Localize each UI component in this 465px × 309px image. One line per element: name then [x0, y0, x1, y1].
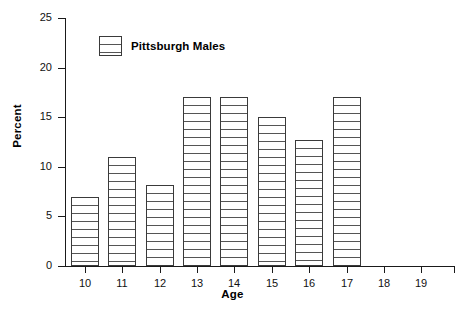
x-tick	[122, 266, 123, 273]
x-axis-title: Age	[0, 288, 465, 300]
y-tick	[58, 18, 66, 19]
x-tick	[309, 266, 310, 273]
bar-age-13	[183, 97, 211, 266]
bar-age-15	[258, 117, 286, 266]
y-tick-label: 0	[0, 260, 52, 271]
bar-age-11	[108, 157, 136, 266]
y-tick-label: 25	[0, 12, 52, 23]
bar-age-17	[333, 97, 361, 266]
bar-chart: Percent 0510152025 10111213141516171819 …	[0, 0, 465, 309]
chart-legend: Pittsburgh Males	[99, 36, 225, 56]
legend-swatch-pittsburgh-males	[99, 36, 122, 56]
legend-label-pittsburgh-males: Pittsburgh Males	[131, 40, 225, 52]
y-tick-label: 5	[0, 210, 52, 221]
x-tick	[384, 266, 385, 273]
y-tick-label: 15	[0, 111, 52, 122]
x-tick	[421, 266, 422, 273]
x-tick	[234, 266, 235, 273]
bar-age-16	[295, 140, 323, 266]
y-tick-label: 10	[0, 161, 52, 172]
bar-age-10	[71, 197, 99, 266]
x-tick	[272, 266, 273, 273]
x-tick-end	[454, 266, 455, 273]
bar-age-12	[146, 185, 174, 266]
x-tick	[197, 266, 198, 273]
x-tick	[160, 266, 161, 273]
bar-age-14	[220, 97, 248, 266]
y-tick	[58, 216, 66, 217]
y-tick-label: 20	[0, 62, 52, 73]
x-axis-line	[65, 266, 455, 267]
y-tick	[58, 167, 66, 168]
y-tick	[58, 68, 66, 69]
y-tick	[58, 117, 66, 118]
y-tick	[58, 266, 66, 267]
x-tick	[85, 266, 86, 273]
x-tick	[347, 266, 348, 273]
